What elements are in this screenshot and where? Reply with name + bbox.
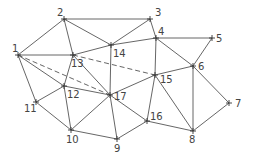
node-label: 2 — [57, 7, 63, 18]
node-label: 14 — [113, 48, 126, 59]
edge-10-11 — [36, 102, 71, 130]
node-label: 10 — [66, 134, 79, 145]
edge-13-14 — [73, 45, 111, 55]
node-label: 16 — [150, 111, 163, 122]
edge-8-16 — [147, 121, 193, 131]
edge-1-12 — [18, 55, 64, 86]
node-12: 12 — [61, 83, 80, 100]
node-5: 5 — [209, 33, 222, 44]
node-label: 8 — [189, 134, 195, 145]
edge-14-4 — [111, 38, 156, 45]
node-label: 13 — [71, 58, 84, 69]
edge-12-11 — [36, 86, 64, 102]
node-label: 17 — [114, 91, 127, 102]
edge-4-15 — [155, 38, 156, 75]
node-label: 5 — [216, 33, 222, 44]
edge-16-9 — [117, 121, 147, 139]
network-diagram: 1234567891011121314151617 — [0, 0, 254, 159]
edge-10-17 — [71, 95, 110, 130]
edge-1-2 — [18, 19, 64, 55]
node-label: 3 — [155, 7, 161, 18]
node-label: 11 — [24, 103, 37, 114]
node-label: 6 — [198, 61, 204, 72]
node-8: 8 — [189, 128, 196, 145]
node-label: 9 — [114, 143, 120, 154]
edge-7-8 — [193, 103, 229, 131]
node-9: 9 — [114, 136, 120, 154]
node-label: 4 — [158, 26, 164, 37]
edge-14-17 — [110, 45, 111, 95]
edge-3-14 — [111, 19, 150, 45]
edge-3-4 — [150, 19, 156, 38]
node-label: 15 — [160, 74, 173, 85]
node-label: 7 — [235, 98, 241, 109]
node-15: 15 — [152, 72, 173, 85]
node-17: 17 — [107, 91, 127, 102]
edge-4-6 — [156, 38, 193, 66]
edges-layer — [18, 19, 229, 139]
node-label: 1 — [12, 43, 18, 54]
edge-2-13 — [64, 19, 73, 55]
node-10: 10 — [66, 127, 79, 145]
edge-2-14 — [64, 19, 111, 45]
node-label: 12 — [67, 89, 80, 100]
node-13: 13 — [70, 52, 84, 69]
